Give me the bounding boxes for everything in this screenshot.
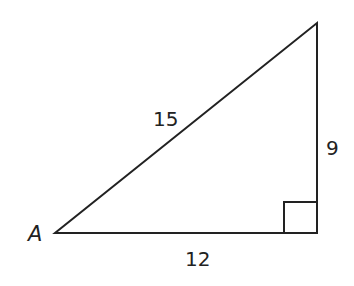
hypotenuse-label: 15 xyxy=(153,107,178,131)
vertical-side-label: 9 xyxy=(326,136,339,160)
triangle-shape xyxy=(55,23,317,233)
right-angle-marker xyxy=(284,202,317,233)
triangle-diagram: A 15 9 12 xyxy=(0,0,354,286)
vertex-label-a: A xyxy=(26,222,42,246)
horizontal-side-label: 12 xyxy=(185,247,210,271)
